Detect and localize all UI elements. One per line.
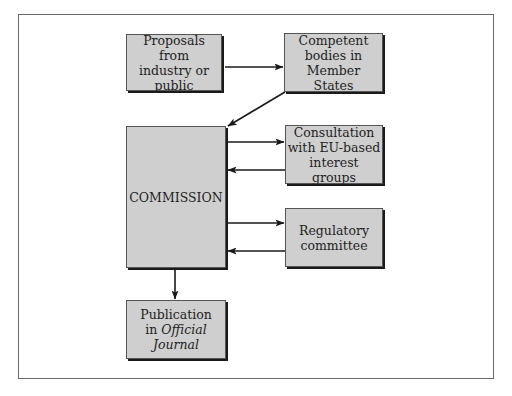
node-regulatory-committee: Regulatory committee <box>285 208 383 267</box>
node-consultation: Consultation with EU-based interest grou… <box>285 125 383 184</box>
node-competent-bodies-label: Competent bodies in Member States <box>285 33 382 93</box>
node-competent-bodies: Competent bodies in Member States <box>284 33 383 92</box>
node-consultation-label: Consultation with EU-based interest grou… <box>286 125 382 185</box>
node-publication: Publication in Official Journal <box>126 300 226 359</box>
connector-arrows <box>0 0 512 396</box>
node-commission: COMMISSION <box>126 126 226 268</box>
node-proposals: Proposals from industry or public <box>126 34 222 91</box>
node-publication-label: Publication in Official Journal <box>140 307 212 352</box>
official-journal-text: Official Journal <box>153 322 207 352</box>
arrow-competent-to-commission <box>228 92 285 126</box>
node-regulatory-committee-label: Regulatory committee <box>299 223 369 253</box>
node-commission-label: COMMISSION <box>129 190 222 205</box>
node-proposals-label: Proposals from industry or public <box>127 33 221 93</box>
